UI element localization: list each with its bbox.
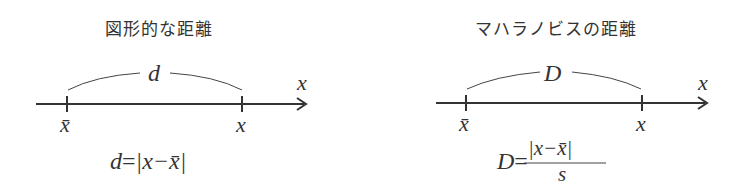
right-distance-symbol: D [544, 60, 561, 87]
right-tick-xbar-label: x̄ [459, 111, 469, 137]
left-tick-xbar-label: x̄ [60, 112, 70, 138]
left-formula-rhs: |x−x̄| [136, 148, 187, 174]
right-formula-numerator: |x−x̄| [528, 136, 572, 161]
left-formula-eq: = [122, 148, 136, 174]
left-distance-symbol: d [148, 60, 160, 87]
right-formula-eq: = [514, 148, 528, 174]
right-axis [436, 95, 707, 111]
right-formula-denominator: s [558, 162, 566, 187]
right-axis-label: x [698, 70, 708, 96]
right-tick-x-label: x [636, 111, 646, 137]
right-title: マハラノビスの距離 [475, 15, 637, 40]
left-axis [36, 96, 306, 112]
left-axis-label: x [297, 70, 307, 96]
left-title: 図形的な距離 [105, 15, 213, 40]
right-formula-lhs-group: D= [497, 148, 528, 175]
left-formula-lhs: d [110, 148, 122, 174]
left-formula: d=|x−x̄| [110, 148, 186, 175]
right-formula-lhs: D [497, 148, 514, 174]
left-tick-x-label: x [236, 112, 246, 138]
